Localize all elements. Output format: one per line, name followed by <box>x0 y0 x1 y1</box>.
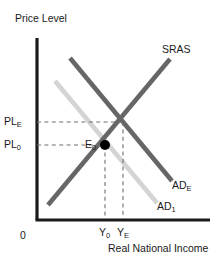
equilibrium-point-e0 <box>100 140 110 150</box>
x-axis-title: Real National Income <box>108 243 208 254</box>
y-tick-ple-base: PL <box>4 115 17 127</box>
y-tick-pl0-subscript: 0 <box>17 143 21 152</box>
point-label-e0-subscript: 0 <box>92 143 96 152</box>
curve-label-ad1-subscript: 1 <box>172 205 176 214</box>
ad-as-diagram: Price Level Real National Income 0 PLE P… <box>0 0 220 258</box>
curve-label-ade: ADE <box>172 180 192 191</box>
x-tick-label-ye: YE <box>117 227 129 238</box>
origin-label: 0 <box>20 230 26 241</box>
curve-label-ade-subscript: E <box>187 184 192 193</box>
curve-label-ad1-base: AD <box>157 200 172 212</box>
x-tick-y0-subscript: 0 <box>106 231 110 240</box>
curve-label-ade-base: AD <box>172 179 187 191</box>
point-label-e0-base: E <box>85 138 92 150</box>
y-tick-label-ple: PLE <box>4 116 22 127</box>
x-tick-ye-subscript: E <box>124 231 129 240</box>
sras-curve <box>48 59 170 205</box>
y-axis-title: Price Level <box>15 13 67 24</box>
curve-label-ad1: AD1 <box>157 201 176 212</box>
x-tick-label-y0: Y0 <box>99 227 110 238</box>
x-tick-y0-base: Y <box>99 226 106 238</box>
y-tick-label-pl0: PL0 <box>4 139 21 150</box>
y-tick-pl0-base: PL <box>4 138 17 150</box>
curve-label-sras: SRAS <box>162 44 191 55</box>
y-tick-ple-subscript: E <box>17 120 22 129</box>
x-tick-ye-base: Y <box>117 226 124 238</box>
diagram-canvas <box>0 0 220 258</box>
point-label-e0: E0 <box>85 139 96 150</box>
